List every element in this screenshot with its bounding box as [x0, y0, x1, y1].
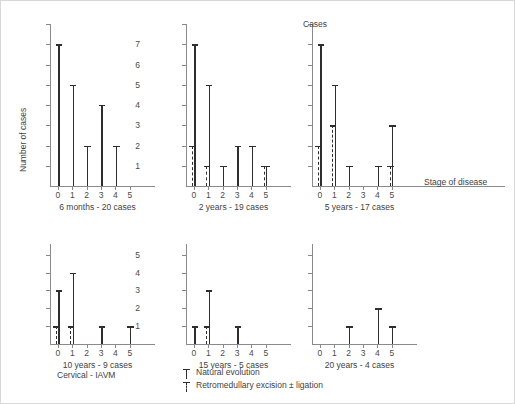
bar-retromedullary-excision	[318, 146, 319, 187]
bar-natural-evolution	[73, 85, 74, 186]
y-tick	[308, 308, 312, 309]
y-tick	[182, 273, 186, 274]
y-tick	[308, 166, 312, 167]
bar-natural-evolution	[320, 44, 321, 186]
chart-panel: 0123452 years - 19 cases	[186, 24, 291, 216]
bar-natural-evolution	[58, 290, 59, 344]
x-tick-label: 0	[318, 349, 323, 358]
x-axis-line	[312, 344, 417, 345]
x-tick-label: 5	[390, 191, 395, 200]
y-tick	[46, 255, 50, 256]
bar-natural-evolution	[349, 326, 350, 344]
bar-cap	[99, 326, 106, 327]
panel-caption: 5 years - 17 cases	[325, 202, 394, 212]
bar-natural-evolution	[266, 166, 267, 186]
x-tick-label: 1	[70, 349, 75, 358]
bar-natural-evolution	[237, 326, 238, 344]
y-tick	[182, 166, 186, 167]
plot-area: 1234567012345	[50, 24, 145, 186]
y-tick	[46, 125, 50, 126]
x-tick-label: 4	[375, 349, 380, 358]
dashed-bar-icon	[182, 381, 192, 392]
x-tick-label: 2	[346, 349, 351, 358]
y-tick	[182, 326, 186, 327]
bar-cap	[113, 146, 120, 147]
x-tick-label: 5	[128, 349, 133, 358]
bar-cap	[192, 326, 199, 327]
plot-area: 12345012345	[50, 244, 145, 344]
y-tick	[182, 308, 186, 309]
legend-label: Natural evolution	[196, 367, 260, 377]
x-tick-label: 3	[99, 191, 104, 200]
x-tick-label: 2	[84, 191, 89, 200]
bar-natural-evolution	[335, 85, 336, 186]
y-tick-label: 3	[135, 121, 140, 129]
x-axis-title: Stage of disease	[424, 177, 487, 187]
x-tick-label: 3	[235, 349, 240, 358]
y-tick	[46, 326, 50, 327]
bar-cap	[56, 290, 63, 291]
y-tick-label: 2	[135, 142, 140, 150]
bar-retromedullary-excision	[192, 146, 193, 187]
bar-natural-evolution	[223, 166, 224, 186]
y-tick	[46, 290, 50, 291]
y-axis-line	[50, 24, 51, 186]
bar-natural-evolution	[58, 44, 59, 186]
y-tick	[182, 290, 186, 291]
bar-cap	[330, 125, 337, 126]
bar-natural-evolution	[209, 85, 210, 186]
y-tick-label: 5	[135, 81, 140, 89]
plot-area: 012345	[312, 244, 407, 344]
x-tick-label: 5	[390, 349, 395, 358]
x-tick-label: 3	[361, 349, 366, 358]
bar-retromedullary-excision	[332, 125, 333, 186]
y-tick	[182, 44, 186, 45]
bar-natural-evolution	[130, 326, 131, 344]
bar-cap	[220, 166, 227, 167]
x-tick-label: 3	[99, 349, 104, 358]
y-tick	[308, 326, 312, 327]
bar-cap	[235, 146, 242, 147]
chart-panel: 1234501234510 years - 9 cases	[50, 244, 155, 374]
bar-natural-evolution	[378, 308, 379, 344]
y-tick	[46, 65, 50, 66]
bar-cap	[375, 166, 382, 167]
bar-cap	[192, 44, 199, 45]
bar-cap	[375, 308, 382, 309]
y-axis-line	[312, 24, 313, 186]
y-tick-label: 2	[135, 304, 140, 312]
y-tick	[46, 24, 50, 25]
bar-retromedullary-excision	[264, 166, 265, 186]
x-tick-label: 0	[56, 349, 61, 358]
bar-natural-evolution	[392, 326, 393, 344]
bar-cap	[318, 44, 325, 45]
bar-retromedullary-excision	[70, 326, 71, 344]
bar-natural-evolution	[73, 273, 74, 344]
panel-caption: 6 months - 20 cases	[59, 202, 136, 212]
x-tick-label: 4	[113, 191, 118, 200]
x-axis-line	[50, 344, 155, 345]
bar-cap	[389, 125, 396, 126]
y-tick	[308, 125, 312, 126]
y-tick	[182, 255, 186, 256]
x-tick-label: 2	[346, 191, 351, 200]
panel-caption: 20 years - 4 cases	[325, 360, 394, 370]
y-tick-label: 3	[135, 286, 140, 294]
x-tick-label: 5	[128, 191, 133, 200]
x-tick-label: 5	[264, 349, 269, 358]
bar-retromedullary-excision	[56, 326, 57, 344]
x-tick-label: 1	[70, 191, 75, 200]
x-tick-label: 1	[206, 349, 211, 358]
x-axis-line	[50, 186, 155, 187]
x-tick-label: 3	[235, 191, 240, 200]
bar-natural-evolution	[378, 166, 379, 186]
bar-natural-evolution	[101, 105, 102, 186]
y-tick-label: 4	[135, 101, 140, 109]
y-axis-line	[312, 244, 313, 344]
bar-cap	[68, 326, 75, 327]
bar-natural-evolution	[194, 44, 195, 186]
y-tick	[46, 273, 50, 274]
bar-retromedullary-excision	[206, 326, 207, 344]
bar-cap	[84, 146, 91, 147]
x-tick-label: 4	[375, 191, 380, 200]
